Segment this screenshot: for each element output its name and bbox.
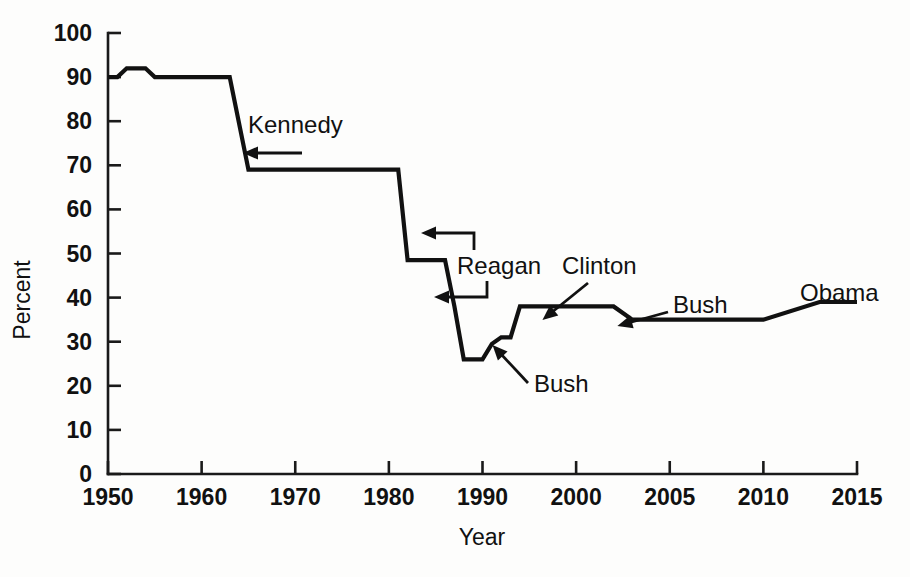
x-tick-group — [108, 461, 857, 474]
x-tick-label-group: 195019601970198019902000200520102015 — [82, 484, 882, 510]
x-tick-label: 1960 — [176, 484, 227, 510]
x-tick-label: 1990 — [457, 484, 508, 510]
y-tick-group — [108, 33, 121, 474]
arrow-shaft — [435, 233, 474, 250]
annotation-label-bush-upper: Bush — [673, 291, 728, 318]
arrow-shaft — [500, 353, 528, 383]
arrow-head-icon — [434, 290, 449, 303]
annotation-arrow-bush-lower — [492, 345, 528, 383]
y-tick-label: 20 — [66, 373, 92, 399]
y-tick-label-group: 0102030405060708090100 — [54, 20, 92, 487]
y-tick-label: 50 — [66, 241, 92, 267]
y-tick-label: 80 — [66, 108, 92, 134]
data-series-line — [108, 68, 857, 359]
annotation-label-bush-lower: Bush — [534, 370, 589, 397]
x-tick-label: 1980 — [363, 484, 414, 510]
arrow-head-icon — [421, 226, 436, 239]
annotation-label-obama: Obama — [800, 279, 879, 306]
x-tick-label: 1970 — [270, 484, 321, 510]
y-axis-title: Percent — [9, 260, 35, 340]
annotation-layer: KennedyReaganClintonBushBushObama — [243, 111, 879, 397]
x-tick-label: 2010 — [738, 484, 789, 510]
annotation-arrow-clinton — [542, 283, 588, 320]
chart-figure: 0102030405060708090100 19501960197019801… — [0, 0, 910, 577]
y-tick-label: 90 — [66, 64, 92, 90]
y-tick-label: 100 — [54, 20, 92, 46]
y-tick-label: 40 — [66, 285, 92, 311]
x-axis-title: Year — [459, 524, 506, 550]
annotation-arrow-reagan-upper — [421, 226, 474, 250]
annotation-label-clinton: Clinton — [562, 252, 637, 279]
annotation-arrow-reagan-lower — [434, 281, 487, 304]
y-tick-label: 60 — [66, 196, 92, 222]
x-tick-label: 2000 — [551, 484, 602, 510]
y-tick-label: 70 — [66, 152, 92, 178]
x-tick-label: 2005 — [644, 484, 695, 510]
y-tick-label: 10 — [66, 417, 92, 443]
x-tick-label: 1950 — [82, 484, 133, 510]
annotation-label-kennedy: Kennedy — [248, 111, 343, 138]
annotation-label-reagan: Reagan — [457, 252, 541, 279]
y-tick-label: 30 — [66, 329, 92, 355]
line-chart: 0102030405060708090100 19501960197019801… — [0, 0, 910, 577]
annotation-arrow-kennedy — [243, 146, 302, 159]
x-tick-label: 2015 — [831, 484, 882, 510]
